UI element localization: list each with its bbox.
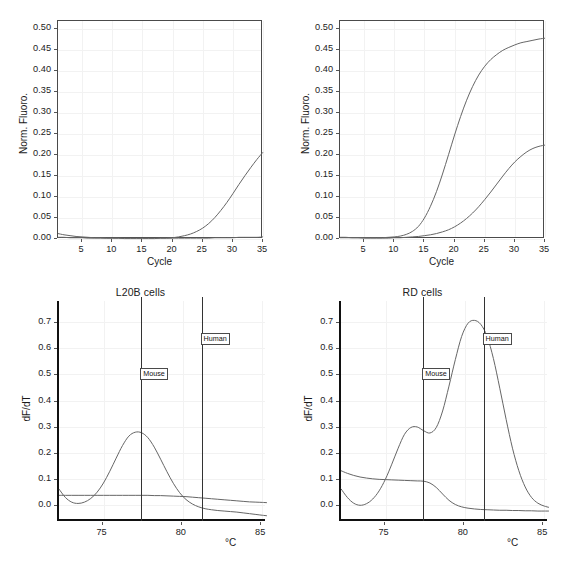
x-tick-label: 85 <box>522 527 562 537</box>
data-curve <box>59 432 267 516</box>
x-tick-mark <box>111 239 112 242</box>
y-tick-label: 0.30 <box>290 106 333 116</box>
x-tick-mark <box>102 522 103 525</box>
y-tick-mark <box>336 453 339 454</box>
x-tick-label: 35 <box>524 244 563 254</box>
y-tick-mark <box>336 112 339 113</box>
y-tick-label: 0.30 <box>8 106 51 116</box>
gridline-horizontal <box>340 239 543 240</box>
y-tick-label: 0.00 <box>8 232 51 242</box>
y-tick-label: 0.40 <box>8 64 51 74</box>
y-tick-label: 0.6 <box>8 342 51 352</box>
y-tick-label: 0.00 <box>290 232 333 242</box>
y-tick-mark <box>336 505 339 506</box>
y-axis-label: dF/dT <box>303 369 314 449</box>
y-tick-label: 0.50 <box>8 22 51 32</box>
y-tick-mark <box>54 49 57 50</box>
y-tick-mark <box>54 217 57 218</box>
x-tick-mark <box>260 522 261 525</box>
y-tick-label: 0.2 <box>290 447 333 457</box>
y-tick-mark <box>336 238 339 239</box>
y-tick-mark <box>336 427 339 428</box>
y-tick-label: 0.7 <box>290 316 333 326</box>
y-tick-mark <box>336 322 339 323</box>
y-tick-label: 0.15 <box>290 169 333 179</box>
marker-line-human[interactable] <box>202 297 203 521</box>
x-tick-mark <box>514 239 515 242</box>
y-tick-mark <box>54 348 57 349</box>
x-tick-label: 80 <box>161 527 201 537</box>
y-tick-label: 0.7 <box>8 316 51 326</box>
x-tick-mark <box>423 239 424 242</box>
x-tick-mark <box>463 522 464 525</box>
y-tick-mark <box>54 238 57 239</box>
data-curve <box>341 320 549 507</box>
y-tick-label: 0.15 <box>8 169 51 179</box>
marker-label-human[interactable]: Human <box>201 333 230 345</box>
y-tick-label: 0.40 <box>290 64 333 74</box>
y-tick-label: 0.5 <box>8 368 51 378</box>
y-tick-label: 0.4 <box>290 395 333 405</box>
y-axis-label: dF/dT <box>21 369 32 449</box>
x-tick-mark <box>202 239 203 242</box>
figure-root: Norm. Fluoro. 0.000.050.100.150.200.250.… <box>0 0 563 569</box>
marker-line-mouse[interactable] <box>141 297 142 521</box>
y-tick-mark <box>336 91 339 92</box>
y-tick-mark <box>54 91 57 92</box>
gridline-vertical <box>545 21 546 237</box>
y-tick-label: 0.05 <box>290 211 333 221</box>
x-tick-mark <box>141 239 142 242</box>
y-tick-mark <box>336 196 339 197</box>
x-axis-label: °C <box>507 537 547 548</box>
x-tick-mark <box>262 239 263 242</box>
data-curve <box>340 145 545 238</box>
plot-area <box>339 20 544 238</box>
y-tick-label: 0.10 <box>8 190 51 200</box>
y-tick-label: 0.10 <box>290 190 333 200</box>
x-axis-label: Cycle <box>57 256 262 267</box>
marker-label-mouse[interactable]: Mouse <box>140 368 168 380</box>
x-tick-mark <box>181 522 182 525</box>
marker-label-human[interactable]: Human <box>483 333 512 345</box>
y-tick-mark <box>336 175 339 176</box>
gridline-horizontal <box>58 239 261 240</box>
x-tick-mark <box>484 239 485 242</box>
y-tick-mark <box>336 217 339 218</box>
y-tick-label: 0.2 <box>8 447 51 457</box>
y-tick-label: 0.25 <box>8 127 51 137</box>
y-tick-label: 0.50 <box>290 22 333 32</box>
y-tick-label: 0.6 <box>290 342 333 352</box>
panel-bottom-left: L20B cells dF/dT 0.00.10.20.30.40.50.60.… <box>0 285 281 569</box>
y-tick-mark <box>336 374 339 375</box>
y-tick-mark <box>336 70 339 71</box>
y-tick-label: 0.1 <box>290 473 333 483</box>
data-curve <box>341 471 549 511</box>
y-tick-mark <box>336 154 339 155</box>
y-tick-mark <box>336 348 339 349</box>
y-tick-mark <box>54 154 57 155</box>
panel-top-right: Norm. Fluoro. 0.000.050.100.150.200.250.… <box>282 0 563 285</box>
x-tick-mark <box>232 239 233 242</box>
marker-label-mouse[interactable]: Mouse <box>422 368 450 380</box>
y-tick-label: 0.20 <box>290 148 333 158</box>
y-tick-mark <box>54 70 57 71</box>
y-tick-mark <box>336 479 339 480</box>
marker-line-human[interactable] <box>484 297 485 521</box>
y-tick-mark <box>54 196 57 197</box>
x-tick-mark <box>544 239 545 242</box>
y-tick-label: 0.1 <box>8 473 51 483</box>
gridline-vertical <box>263 21 264 237</box>
y-tick-label: 0.45 <box>290 43 333 53</box>
y-tick-mark <box>336 49 339 50</box>
x-tick-label: 85 <box>240 527 280 537</box>
curve-layer <box>59 301 267 521</box>
y-tick-mark <box>54 133 57 134</box>
x-tick-label: 35 <box>242 244 282 254</box>
plot-area <box>339 301 547 521</box>
plot-area <box>57 301 265 521</box>
marker-line-mouse[interactable] <box>423 297 424 521</box>
x-tick-label: 80 <box>443 527 483 537</box>
x-tick-mark <box>454 239 455 242</box>
y-tick-label: 0.3 <box>290 421 333 431</box>
data-curve <box>58 152 263 238</box>
